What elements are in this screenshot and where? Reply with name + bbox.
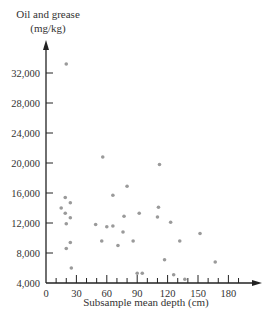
y-tick-label: 28,000	[11, 98, 40, 109]
data-point	[64, 222, 68, 226]
data-point	[163, 258, 167, 262]
data-point	[70, 266, 74, 270]
data-point	[69, 241, 73, 245]
data-point	[137, 211, 141, 215]
y-tick-label: 16,000	[11, 188, 40, 199]
data-point	[172, 273, 176, 277]
data-point	[157, 205, 161, 209]
data-point	[64, 62, 68, 66]
x-tick-label: 180	[221, 288, 237, 299]
y-tick-label: 8,000	[16, 248, 40, 259]
y-tick-label: 4,000	[16, 278, 40, 289]
data-points	[59, 62, 217, 281]
data-point	[140, 271, 144, 275]
y-tick-label: 20,000	[11, 158, 40, 169]
data-point	[122, 214, 126, 218]
data-point	[183, 277, 187, 281]
data-point	[111, 193, 115, 197]
data-point	[94, 223, 98, 227]
data-point	[63, 196, 67, 200]
y-tick-label: 24,000	[11, 128, 40, 139]
x-axis-title: Subsample mean depth (cm)	[83, 296, 209, 309]
y-axis-ticks: 4,0008,00012,00016,00020,00024,00028,000…	[11, 68, 53, 289]
y-axis-arrow-icon	[43, 40, 49, 50]
data-point	[101, 155, 105, 159]
y-tick-label: 32,000	[11, 68, 40, 79]
data-point	[178, 239, 182, 243]
data-point	[135, 271, 139, 275]
data-point	[111, 224, 115, 228]
data-point	[69, 201, 73, 205]
data-point	[156, 215, 160, 219]
data-point	[69, 216, 73, 220]
x-tick-label: 0	[43, 288, 48, 299]
x-tick-label: 30	[71, 288, 82, 299]
data-point	[64, 247, 68, 251]
data-point	[100, 239, 104, 243]
data-point	[116, 244, 120, 248]
data-point	[213, 260, 217, 264]
data-point	[63, 211, 67, 215]
data-point	[59, 206, 63, 210]
data-point	[121, 230, 125, 234]
data-point	[198, 232, 202, 236]
scatter-chart: Oil and grease (mg/kg) 4,0008,00012,0001…	[0, 0, 273, 327]
x-axis-arrow-icon	[252, 280, 262, 286]
y-axis-title-line-1: Oil and grease	[16, 8, 80, 20]
data-point	[105, 225, 109, 229]
y-axis-title: Oil and grease (mg/kg)	[16, 8, 80, 35]
y-axis-title-line-2: (mg/kg)	[30, 22, 66, 35]
data-point	[131, 239, 135, 243]
y-tick-label: 12,000	[11, 218, 40, 229]
data-point	[158, 163, 162, 167]
axes	[43, 40, 262, 286]
data-point	[169, 220, 173, 224]
data-point	[125, 184, 129, 188]
